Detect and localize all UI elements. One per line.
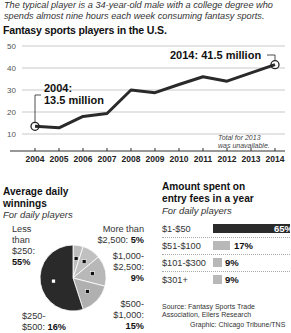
x-tick-label: 2006 (74, 154, 93, 164)
x-tick-label: 2014 (266, 154, 285, 164)
x-tick-label: 2005 (50, 154, 69, 164)
y-tick-label: 40 (7, 64, 16, 73)
y-tick-label: 50 (7, 42, 16, 51)
x-tick-label: 2004 (26, 154, 45, 164)
start-annotation: 2004: (44, 82, 72, 94)
x-tick-label: 2012 (218, 154, 237, 164)
bar-row: $101-$300 9% (162, 255, 290, 272)
svg-text:13.5 million: 13.5 million (44, 94, 104, 106)
bar-chart-subtitle: For daily players (162, 205, 232, 216)
x-tick-label: 2009 (146, 154, 165, 164)
y-tick-label: 30 (7, 86, 16, 95)
bar (213, 275, 222, 284)
pie-label-less-than-250: Less than $250: 55% (12, 224, 35, 268)
bar-row: $51-$100 17% (162, 238, 290, 255)
pie-label-1000-2500: $1,000- $2,500: 9% (106, 251, 144, 284)
y-tick-label: 10 (7, 130, 16, 139)
bar-row: $301+ 9% (162, 272, 290, 288)
bar (213, 241, 230, 250)
x-tick-label: 2013 (242, 154, 261, 164)
bar-row: $1-$50 65% (162, 221, 290, 238)
bar (213, 258, 222, 267)
x-tick-label: 2008 (122, 154, 141, 164)
graphic-credit: Graphic: Chicago Tribune/TNS (190, 321, 285, 328)
x-tick-label: 2011 (194, 154, 213, 164)
svg-text:was unavailable.: was unavailable. (218, 142, 270, 149)
x-tick-label: 2010 (170, 154, 189, 164)
source-note: Source: Fantasy Sports Trade Association… (162, 303, 272, 319)
note: Total for 2013 (218, 134, 261, 141)
line-chart: 1020304050200420052006200720082009201020… (0, 0, 291, 170)
pie-label-250-500: $250- $500: 16% (22, 311, 66, 333)
pie-label-more-than-2500: More than $2,500: 5% (96, 224, 144, 246)
end-annotation: 2014: 41.5 million (170, 49, 261, 61)
bar-chart-title: Amount spent on entry fees in a year (162, 180, 254, 204)
pie-label-500-1000: $500- $1,000: 15% (106, 299, 144, 332)
x-tick-label: 2007 (98, 154, 117, 164)
y-tick-label: 20 (7, 108, 16, 117)
